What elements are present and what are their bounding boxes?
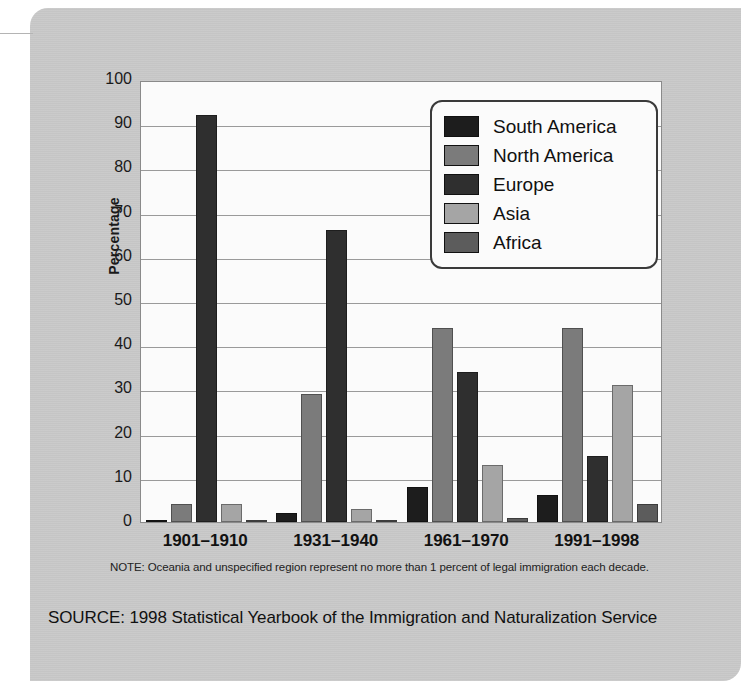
chart-note: NOTE: Oceania and unspecified region rep… bbox=[110, 561, 650, 573]
bar-group bbox=[276, 82, 397, 522]
bar-chart: Percentage 1009080706050403020100 1901–1… bbox=[0, 0, 741, 689]
legend-item-label: Asia bbox=[493, 203, 530, 225]
legend: South AmericaNorth AmericaEuropeAsiaAfri… bbox=[430, 100, 658, 269]
bar bbox=[171, 504, 192, 522]
y-axis-tick-label: 40 bbox=[86, 335, 132, 353]
legend-item-label: South America bbox=[493, 116, 617, 138]
bar bbox=[326, 230, 347, 522]
bar bbox=[146, 520, 167, 522]
bar bbox=[351, 509, 372, 522]
bar bbox=[301, 394, 322, 522]
legend-item: Africa bbox=[444, 228, 644, 257]
bar-group bbox=[146, 82, 267, 522]
y-axis-title: Percentage bbox=[106, 166, 122, 306]
legend-item: Europe bbox=[444, 170, 644, 199]
legend-swatch-icon bbox=[444, 203, 479, 224]
legend-item-label: North America bbox=[493, 145, 613, 167]
x-axis-tick-label: 1961–1970 bbox=[391, 531, 541, 551]
bar bbox=[276, 513, 297, 522]
y-axis-tick-label: 100 bbox=[86, 70, 132, 88]
legend-item: Asia bbox=[444, 199, 644, 228]
y-axis-tick-label: 20 bbox=[86, 424, 132, 442]
bar bbox=[221, 504, 242, 522]
bar bbox=[507, 518, 528, 522]
legend-swatch-icon bbox=[444, 174, 479, 195]
chart-source: SOURCE: 1998 Statistical Yearbook of the… bbox=[48, 608, 708, 628]
legend-swatch-icon bbox=[444, 116, 479, 137]
y-axis-tick-label: 0 bbox=[86, 512, 132, 530]
legend-item: South America bbox=[444, 112, 644, 141]
bar bbox=[612, 385, 633, 522]
x-axis-tick-label: 1901–1910 bbox=[130, 531, 280, 551]
bar bbox=[246, 520, 267, 522]
bar bbox=[376, 520, 397, 522]
y-axis-tick-label: 80 bbox=[86, 158, 132, 176]
legend-item-label: Africa bbox=[493, 232, 542, 254]
legend-item-label: Europe bbox=[493, 174, 554, 196]
bar bbox=[637, 504, 658, 522]
y-axis-tick-label: 10 bbox=[86, 468, 132, 486]
bar bbox=[196, 115, 217, 522]
y-axis-tick-label: 90 bbox=[86, 114, 132, 132]
bar bbox=[457, 372, 478, 522]
bar bbox=[407, 487, 428, 522]
x-axis-tick-label: 1931–1940 bbox=[261, 531, 411, 551]
x-axis-tick-label: 1991–1998 bbox=[522, 531, 672, 551]
legend-swatch-icon bbox=[444, 145, 479, 166]
legend-swatch-icon bbox=[444, 232, 479, 253]
bar bbox=[432, 328, 453, 522]
legend-item: North America bbox=[444, 141, 644, 170]
bar bbox=[482, 465, 503, 522]
bar bbox=[587, 456, 608, 522]
bar bbox=[562, 328, 583, 522]
y-axis-tick-label: 70 bbox=[86, 203, 132, 221]
y-axis-tick-label: 50 bbox=[86, 291, 132, 309]
y-axis-tick-label: 60 bbox=[86, 247, 132, 265]
bar bbox=[537, 495, 558, 522]
y-axis-tick-label: 30 bbox=[86, 379, 132, 397]
